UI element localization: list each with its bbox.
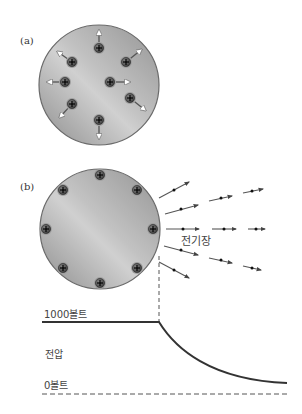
panel-a-sphere — [39, 25, 159, 145]
voltage-axis-label: 전압 — [45, 348, 63, 360]
positive-charge — [93, 42, 105, 54]
charged-sphere-diagram: (a) (b) 전기장 1000볼트 전압 0볼트 — [0, 0, 302, 414]
field-point-dot — [180, 249, 183, 252]
positive-charge — [40, 223, 52, 235]
positive-charge — [94, 277, 106, 289]
field-point-dot — [180, 208, 183, 211]
voltage-curve — [42, 322, 287, 383]
positive-charge — [120, 56, 132, 68]
positive-charge — [94, 169, 106, 181]
positive-charge — [93, 114, 105, 126]
high-voltage-label: 1000볼트 — [44, 309, 87, 320]
zero-voltage-label: 0볼트 — [44, 380, 68, 391]
panel-b-label: (b) — [20, 181, 34, 192]
positive-charge — [57, 184, 69, 196]
positive-charge — [66, 56, 78, 68]
field-point-dot — [251, 267, 254, 270]
electric-field-lines — [159, 182, 265, 278]
positive-charge — [57, 262, 69, 274]
positive-charge — [66, 98, 78, 110]
field-point-dot — [223, 228, 226, 231]
positive-charge — [147, 223, 159, 235]
field-point-dot — [251, 190, 254, 193]
panel-b-sphere — [40, 169, 160, 289]
panel-a-label: (a) — [20, 35, 34, 46]
field-point-dot — [173, 269, 176, 272]
field-point-dot — [255, 228, 258, 231]
positive-charge — [131, 184, 143, 196]
field-point-dot — [220, 197, 223, 200]
field-point-dot — [220, 259, 223, 262]
positive-charge — [59, 76, 71, 88]
electric-field-label: 전기장 — [181, 235, 211, 248]
field-point-dot — [182, 228, 185, 231]
positive-charge — [131, 262, 143, 274]
positive-charge — [104, 76, 116, 88]
positive-charge — [124, 92, 136, 104]
field-point-dot — [173, 189, 176, 192]
